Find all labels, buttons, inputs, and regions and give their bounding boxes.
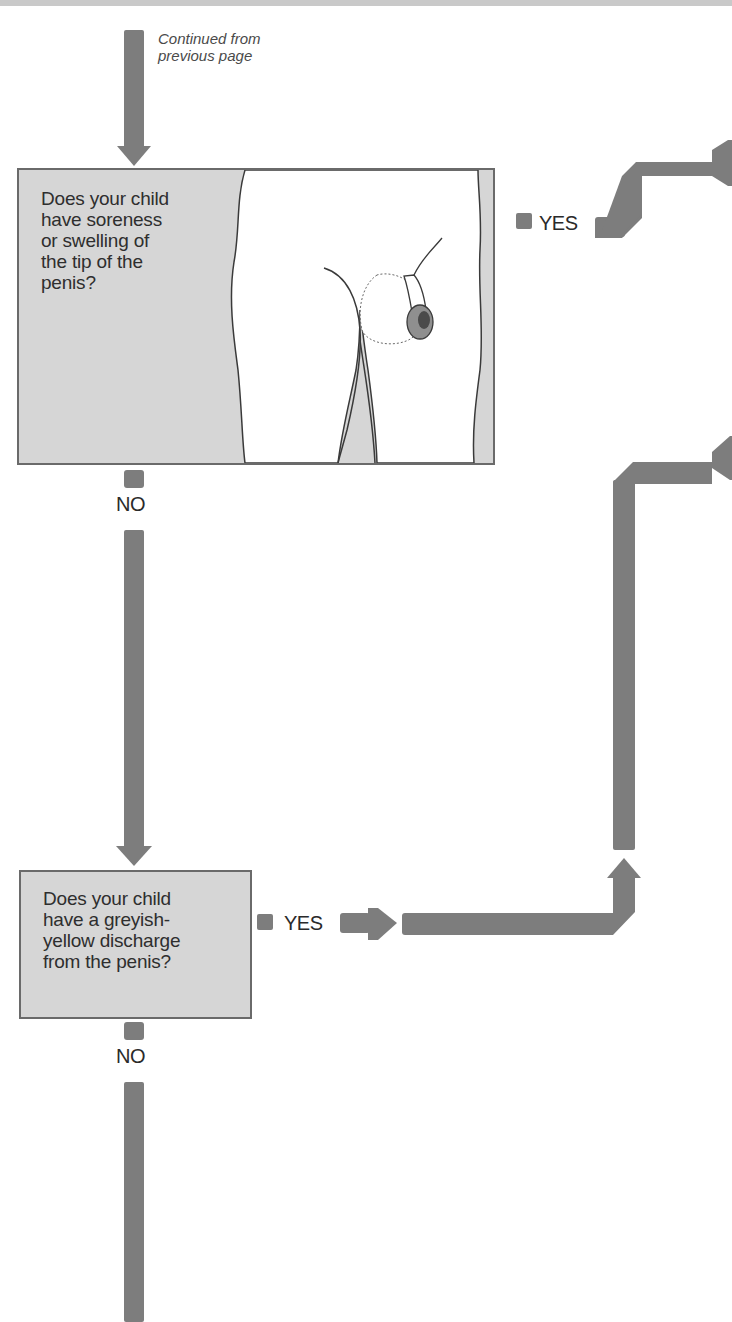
q2-yes-arrow-icon [340, 858, 641, 940]
q1-no-down-arrow-icon [116, 530, 152, 866]
anatomy-illustration-icon [19, 170, 493, 463]
q2-yes-label: YES [284, 912, 323, 935]
q2-yes-long-arrow-icon [613, 436, 732, 850]
question-2-box: Does your child have a greyish- yellow d… [19, 870, 252, 1019]
question-2-text: Does your child have a greyish- yellow d… [43, 888, 180, 972]
q2-no-down-arrow-icon [124, 1082, 144, 1322]
q1-no-stub-icon [124, 470, 144, 488]
q1-no-label: NO [116, 493, 145, 516]
incoming-down-arrow-icon [117, 30, 151, 166]
q2-yes-marker-icon [257, 914, 273, 930]
question-1-box: Does your child have soreness or swellin… [17, 168, 495, 465]
q2-no-stub-icon [124, 1022, 144, 1040]
q1-yes-arrow-icon [595, 140, 732, 238]
q2-no-label: NO [116, 1045, 145, 1068]
q1-yes-marker-icon [516, 213, 532, 229]
continued-from-previous-page-note: Continued from previous page [158, 30, 261, 64]
q1-yes-label: YES [539, 212, 578, 235]
